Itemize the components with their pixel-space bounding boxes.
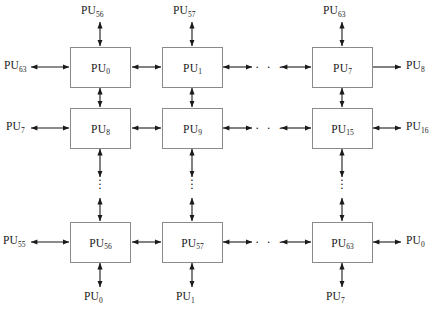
bottom-label-col-0: PU0 — [84, 290, 103, 302]
pu-node-7-label: PU7 — [333, 62, 352, 74]
processor-interconnect-diagram: PU0 PU1 PU7 PU8 PU9 PU15 PU56 PU57 — [0, 0, 432, 311]
col-0-ellipsis: · · · — [94, 178, 106, 190]
top-label-col-0: PU56 — [81, 4, 104, 16]
pu-node-0[interactable]: PU0 — [70, 47, 131, 88]
right-label-row-1: PU16 — [406, 120, 429, 132]
right-label-row-2: PU0 — [406, 234, 425, 246]
pu-node-63-label: PU63 — [331, 237, 354, 249]
pu-node-56-label: PU56 — [89, 237, 112, 249]
pu-node-8-label: PU8 — [91, 123, 110, 135]
row-1-ellipsis: · · · — [255, 121, 285, 134]
pu-node-0-label: PU0 — [91, 62, 110, 74]
pu-node-1[interactable]: PU1 — [162, 47, 223, 88]
row-0-ellipsis: · · · — [255, 60, 285, 73]
pu-node-15-label: PU15 — [331, 123, 354, 135]
bottom-label-col-3: PU7 — [326, 290, 345, 302]
pu-node-9-label: PU9 — [183, 123, 202, 135]
top-label-col-1: PU57 — [173, 4, 196, 16]
right-label-row-0: PU8 — [406, 59, 425, 71]
row-2-ellipsis: · · · — [255, 235, 285, 248]
pu-node-7[interactable]: PU7 — [312, 47, 373, 88]
pu-node-57[interactable]: PU57 — [162, 222, 223, 263]
col-1-ellipsis: · · · — [186, 178, 198, 190]
pu-node-57-label: PU57 — [181, 237, 204, 249]
pu-node-8[interactable]: PU8 — [70, 108, 131, 149]
bottom-label-col-1: PU1 — [176, 290, 195, 302]
left-label-row-2: PU55 — [3, 234, 26, 246]
left-label-row-0: PU63 — [4, 59, 27, 71]
top-label-col-3: PU63 — [323, 4, 346, 16]
pu-node-9[interactable]: PU9 — [162, 108, 223, 149]
pu-node-1-label: PU1 — [183, 62, 202, 74]
left-label-row-1: PU7 — [6, 120, 25, 132]
pu-node-56[interactable]: PU56 — [70, 222, 131, 263]
pu-node-63[interactable]: PU63 — [312, 222, 373, 263]
pu-node-15[interactable]: PU15 — [312, 108, 373, 149]
col-3-ellipsis: · · · — [336, 178, 348, 190]
